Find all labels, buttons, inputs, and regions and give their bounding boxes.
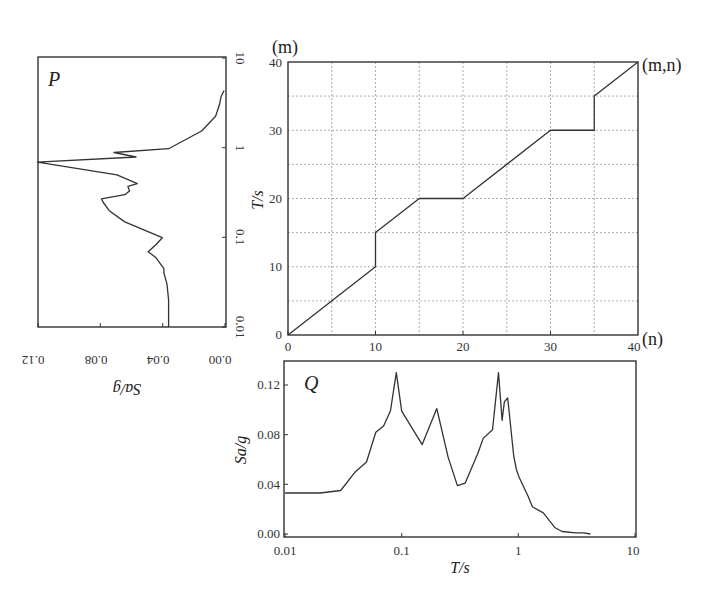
mapping-y-tick-30: 30 xyxy=(269,123,282,138)
q-x-tick-0.1: 0.1 xyxy=(394,543,410,558)
mapping-y-tick-40: 40 xyxy=(269,55,282,70)
q-y-tick-0.00: 0.00 xyxy=(257,526,280,541)
p-sa-tick-0.04: 0.04 xyxy=(146,353,169,368)
panel-label-p: P xyxy=(47,68,60,90)
p-sa-ticks: 0.12 0.08 0.04 0.00 xyxy=(22,323,232,368)
q-y-tick-0.12: 0.12 xyxy=(257,377,280,392)
p-t-tick-0.01: 0.01 xyxy=(233,316,248,339)
corner-label-n: (n) xyxy=(642,329,663,350)
p-chart: 10 1 0.1 0.01 0.12 0.08 0.04 0.00 Sa/g P xyxy=(22,52,248,399)
mapping-y-tick-10: 10 xyxy=(269,259,282,274)
p-frame xyxy=(38,57,226,327)
panel-label-q: Q xyxy=(304,372,319,394)
mapping-y-tick-0: 0 xyxy=(276,327,283,342)
q-spectrum-curve xyxy=(285,373,590,534)
mapping-y-ticks: 40 30 20 10 0 xyxy=(269,55,282,342)
mapping-y-axis-label: T/s xyxy=(249,190,266,210)
q-chart: 0.01 0.1 1 10 0.12 0.08 0.04 0.00 Sa/g T… xyxy=(232,361,640,576)
p-sa-tick-0.12: 0.12 xyxy=(22,353,45,368)
mapping-x-tick-20: 20 xyxy=(457,339,470,354)
mapping-chart: 0 10 20 30 40 40 30 20 10 0 (m) (m,n) (n… xyxy=(249,37,682,354)
q-frame xyxy=(284,361,636,537)
corner-label-m: (m) xyxy=(272,37,298,58)
q-y-tick-0.04: 0.04 xyxy=(257,477,280,492)
q-y-axis-label: Sa/g xyxy=(232,436,250,464)
mapping-y-tick-20: 20 xyxy=(269,191,282,206)
figure-canvas: 0 10 20 30 40 40 30 20 10 0 (m) (m,n) (n… xyxy=(0,0,717,601)
corner-label-mn: (m,n) xyxy=(642,55,682,76)
q-x-tick-10: 10 xyxy=(627,543,640,558)
q-x-tick-1: 1 xyxy=(515,543,522,558)
mapping-x-tick-30: 30 xyxy=(544,339,557,354)
p-spectrum-curve xyxy=(37,91,224,328)
p-sa-axis-label: Sa/g xyxy=(113,380,141,398)
q-x-tick-0.01: 0.01 xyxy=(274,543,297,558)
mapping-x-tick-0: 0 xyxy=(285,339,292,354)
p-sa-tick-0.08: 0.08 xyxy=(85,353,108,368)
mapping-x-tick-40: 40 xyxy=(628,339,641,354)
p-t-tick-1: 1 xyxy=(233,145,248,152)
mapping-x-tick-10: 10 xyxy=(369,339,382,354)
q-y-tick-0.08: 0.08 xyxy=(257,427,280,442)
p-t-tick-10: 10 xyxy=(233,52,248,65)
p-t-tick-0.1: 0.1 xyxy=(233,229,248,245)
q-x-axis-label: T/s xyxy=(450,559,470,576)
p-sa-tick-0.00: 0.00 xyxy=(209,353,232,368)
